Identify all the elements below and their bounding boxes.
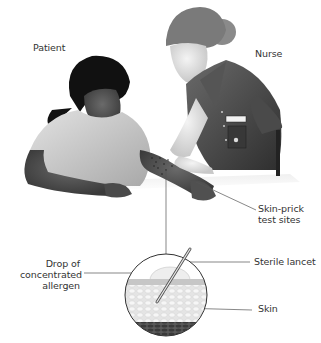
label-skin: Skin: [258, 303, 278, 314]
dermis: [120, 322, 220, 342]
nurse-figure: [166, 7, 282, 176]
skin-prick-test-diagram: Patient Nurse Skin-prick test sites Drop…: [0, 0, 321, 343]
label-nurse: Nurse: [255, 48, 282, 59]
epidermis: [120, 285, 220, 323]
label-patient: Patient: [33, 42, 65, 53]
label-test-sites: Skin-prick test sites: [258, 203, 304, 225]
magnified-inset: [120, 249, 220, 342]
label-sterile-lancet: Sterile lancet: [254, 256, 316, 267]
label-allergen-drop: Drop of concentrated allergen: [20, 258, 80, 291]
name-badge: [226, 116, 246, 122]
